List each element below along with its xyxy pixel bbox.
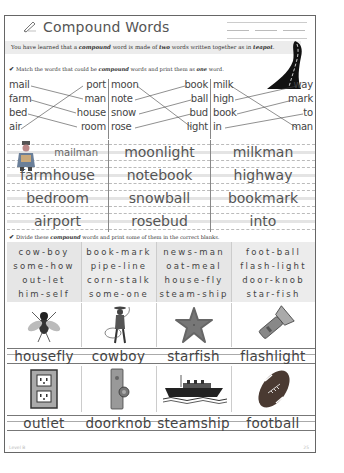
checkmark-icon: ✔ (9, 65, 14, 72)
divided-word: news-man (157, 245, 231, 259)
starfish-icon (174, 306, 214, 344)
answer-column-2: moonlight notebook snowball rosebud (108, 140, 210, 232)
picture-row-1 (7, 303, 315, 347)
picture-row-2 (7, 366, 315, 412)
pencil-icon (23, 21, 37, 33)
name-date-lines (227, 20, 307, 40)
football-icon (254, 367, 294, 411)
match-column-3: milk high book in way mark to man (210, 79, 315, 139)
divided-word: house-fly (157, 273, 231, 287)
divided-word: some-how (7, 259, 81, 273)
picture-cell (231, 366, 315, 412)
answer-word[interactable]: highway (211, 167, 315, 183)
answer-column-3: milkman highway bookmark into (210, 140, 315, 232)
outlet-icon (30, 369, 58, 409)
answer-flashlight[interactable]: flashlight (231, 347, 315, 365)
divided-word: corn-stalk (82, 273, 156, 287)
steamship-icon (161, 373, 227, 405)
answer-cowboy[interactable]: cowboy (81, 347, 156, 365)
answer-football[interactable]: football (231, 414, 315, 432)
divided-word: some-one (82, 287, 156, 301)
divided-word: cow-boy (7, 245, 81, 259)
answer-word[interactable]: airport (7, 213, 108, 229)
answer-housefly[interactable]: housefly (7, 347, 81, 365)
divided-word: door-knob (232, 273, 315, 287)
mailman-icon (13, 141, 39, 171)
divided-word: foot-ball (232, 245, 315, 259)
divided-word: him-self (7, 287, 81, 301)
divided-word: out-let (7, 273, 81, 287)
answer-word[interactable]: bedroom (7, 190, 108, 206)
match-column-2: moon note snow rose book ball bud light (108, 79, 210, 139)
divided-column-1: cow-boy some-how out-let him-self (7, 242, 81, 302)
answer-steamship[interactable]: steamship (156, 414, 231, 432)
flashlight-icon (252, 305, 296, 345)
answer-word[interactable]: moonlight (109, 144, 210, 160)
matching-section: mail farm bed air port man house room mo… (7, 79, 315, 139)
title-bar: Compound Words (5, 16, 315, 38)
answer-outlet[interactable]: outlet (7, 414, 81, 432)
answer-word[interactable]: into (211, 213, 315, 229)
divided-word: steam-ship (157, 287, 231, 301)
match-lines (7, 79, 108, 139)
picture-cell (7, 303, 81, 347)
answer-doorknob[interactable]: doorknob (81, 414, 156, 432)
answer-word[interactable]: milkman (211, 144, 315, 160)
checkmark-icon: ✔ (9, 233, 14, 240)
match-column-1: mail farm bed air port man house room (7, 79, 108, 139)
page-title: Compound Words (43, 19, 170, 35)
housefly-icon (26, 306, 62, 344)
worksheet-page: Compound Words You have learned that a c… (4, 15, 316, 453)
divided-column-3: news-man oat-meal house-fly steam-ship (156, 242, 231, 302)
picture-cell (81, 303, 156, 347)
picture-cell (231, 303, 315, 347)
match-lines (211, 79, 316, 139)
answer-starfish[interactable]: starfish (156, 347, 231, 365)
match-instruction: ✔Match the words that could be compound … (9, 65, 224, 72)
doorknob-icon (107, 368, 131, 410)
match-lines (109, 79, 211, 139)
divide-instruction: ✔Divide these compound words and print s… (9, 233, 220, 240)
writing-row-2: outlet doorknob steamship football (7, 414, 315, 432)
answer-word[interactable]: notebook (109, 167, 210, 183)
picture-cell (156, 366, 231, 412)
divided-word: pipe-line (82, 259, 156, 273)
divided-word: flash-light (232, 259, 315, 273)
page-number: 25 (303, 445, 309, 450)
divided-column-4: foot-ball flash-light door-knob star-fis… (231, 242, 315, 302)
picture-cell (156, 303, 231, 347)
answer-word[interactable]: snowball (109, 190, 210, 206)
picture-cell (81, 366, 156, 412)
answer-word[interactable]: bookmark (211, 190, 315, 206)
divided-words-grid: cow-boy some-how out-let him-self book-m… (7, 242, 315, 302)
divided-column-2: book-mark pipe-line corn-stalk some-one (81, 242, 156, 302)
answer-word[interactable]: rosebud (109, 213, 210, 229)
level-label: Level B (9, 445, 25, 450)
divided-word: star-fish (232, 287, 315, 301)
answer-section: mailman farmhouse bedroom airport moonli… (7, 140, 315, 232)
intro-text: You have learned that a compound word is… (5, 41, 301, 54)
divided-word: oat-meal (157, 259, 231, 273)
picture-cell (7, 366, 81, 412)
cowboy-icon (103, 305, 135, 345)
divided-word: book-mark (82, 245, 156, 259)
writing-row-1: housefly cowboy starfish flashlight (7, 347, 315, 365)
